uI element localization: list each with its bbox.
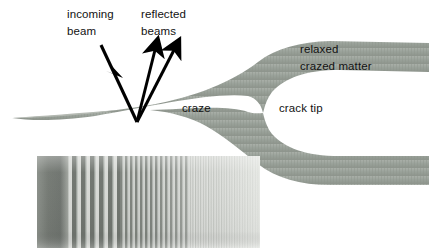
label-incoming-beam: incoming beam bbox=[67, 6, 114, 39]
label-relaxed-crazed-line2: crazed matter bbox=[300, 58, 372, 75]
label-reflected-beams-line1: reflected bbox=[141, 6, 186, 23]
label-incoming-beam-line1: incoming bbox=[67, 6, 114, 23]
label-craze: craze bbox=[182, 100, 211, 117]
label-reflected-beams-line2: beams bbox=[141, 23, 186, 40]
label-relaxed-crazed-matter: relaxed crazed matter bbox=[300, 41, 372, 74]
craze-crack-tip-figure: incoming beam reflected beams relaxed cr… bbox=[0, 0, 429, 248]
label-relaxed-crazed-line1: relaxed bbox=[300, 41, 372, 58]
label-incoming-beam-line2: beam bbox=[67, 23, 114, 40]
micrograph-vertical-shading bbox=[37, 156, 260, 248]
diagram-canvas bbox=[0, 0, 429, 248]
label-crack-tip: crack tip bbox=[279, 100, 323, 117]
interference-fringe-micrograph bbox=[37, 156, 260, 248]
reflected-beam-arrow-1 bbox=[137, 50, 155, 122]
label-reflected-beams: reflected beams bbox=[141, 6, 186, 39]
